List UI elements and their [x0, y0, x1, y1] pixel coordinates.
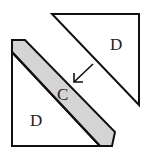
- label-c: C: [57, 86, 68, 103]
- label-bottom-d: D: [30, 112, 42, 129]
- label-top-d: D: [110, 36, 122, 53]
- arrow-icon: [74, 64, 93, 82]
- quilt-block-diagram: [0, 0, 156, 152]
